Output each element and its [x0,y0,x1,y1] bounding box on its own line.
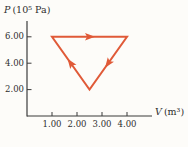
pv-diagram-figure: P(10⁵ Pa) V(m³) 1.002.003.004.002.004.00… [0,0,188,147]
process-cycle-path [52,37,127,90]
x-tick-label: 3.00 [91,119,113,129]
x-tick-label: 1.00 [41,119,63,129]
y-axis-label: P(10⁵ Pa) [4,4,50,15]
y-tick-label: 6.00 [0,31,24,41]
y-axis-symbol: P [4,4,10,15]
x-axis-unit: (m³) [164,106,184,117]
y-axis-unit: (10⁵ Pa) [12,4,50,15]
y-tick-label: 2.00 [0,84,24,94]
x-tick-label: 2.00 [66,119,88,129]
x-axis-symbol: V [155,106,162,117]
y-tick-label: 4.00 [0,58,24,68]
x-axis-label: V(m³) [155,106,184,117]
x-tick-label: 4.00 [116,119,138,129]
